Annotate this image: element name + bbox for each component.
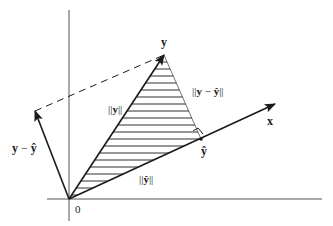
label-part: || (219, 85, 223, 97)
label-part: − (202, 85, 214, 97)
label-y-minus-y-hat: y − ŷ (12, 141, 37, 155)
right-angle-marker (193, 128, 203, 134)
label-origin: 0 (75, 203, 81, 215)
label-part: || (118, 103, 122, 115)
projection-diagram: y x ŷ 0 y − ŷ ||y|| ||y − ŷ|| ||ŷ|| (0, 0, 333, 226)
y-hat-point (199, 137, 203, 141)
label-part: || (149, 173, 153, 185)
label-norm-y-hat: ||ŷ|| (139, 173, 153, 185)
vector-y-minus-y-hat (35, 111, 69, 199)
label-norm-y: ||y|| (108, 103, 122, 115)
label-y: y (161, 35, 167, 49)
label-y-hat: ŷ (201, 144, 207, 158)
label-part: − (18, 141, 31, 155)
label-part: ŷ (31, 141, 37, 155)
label-norm-y-minus-y-hat: ||y − ŷ|| (192, 85, 224, 97)
label-x: x (267, 114, 273, 128)
